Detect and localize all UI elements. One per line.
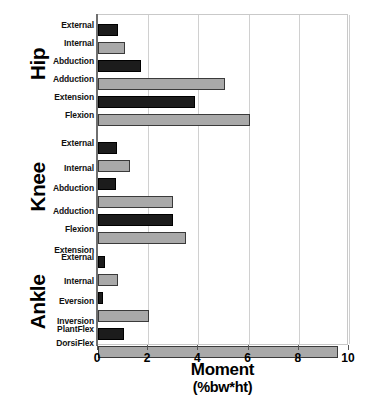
cat-label-ankle-dorsiflex: DorsiFlex [56, 338, 94, 348]
cat-label-ankle-plantflex: PlantFlex [57, 324, 94, 334]
y-axis-line [96, 14, 98, 346]
plot-area [97, 14, 348, 345]
cat-label-ankle-internal: Internal [64, 276, 94, 286]
x-axis-title-unit: (%bw*ht) [97, 379, 348, 395]
bar-knee-flexion [98, 214, 173, 226]
bar-ankle-eversion [98, 292, 103, 304]
x-tick-mark-0 [97, 345, 98, 350]
bar-knee-adduction [98, 196, 173, 208]
x-tick-mark-8 [298, 345, 299, 350]
cat-label-ankle-external: External [61, 252, 94, 262]
cat-label-knee-external: External [61, 138, 94, 148]
x-tick-mark-10 [348, 345, 349, 350]
cat-label-knee-internal: Internal [64, 163, 94, 173]
gridline-8 [299, 15, 300, 344]
bar-ankle-dorsiflex [98, 346, 338, 358]
gridline-2 [148, 15, 149, 344]
x-tick-mark-2 [147, 345, 148, 350]
cat-label-knee-abduction: Abduction [53, 183, 94, 193]
category-label-column: External Internal Abduction Adduction Ex… [22, 0, 94, 414]
gridline-10 [349, 15, 350, 344]
cat-label-knee-adduction: Adduction [53, 206, 94, 216]
bar-ankle-inversion [98, 310, 149, 322]
bar-ankle-external [98, 256, 105, 268]
cat-label-hip-internal: Internal [64, 38, 94, 48]
bar-knee-internal [98, 160, 130, 172]
bar-knee-external [98, 142, 117, 154]
bar-ankle-plantflex [98, 328, 124, 340]
cat-label-hip-flexion: Flexion [65, 110, 94, 120]
bar-hip-adduction [98, 78, 225, 90]
x-axis-title: Moment (%bw*ht) [97, 361, 348, 395]
bar-ankle-internal [98, 274, 118, 286]
cat-label-knee-flexion: Flexion [65, 224, 94, 234]
bar-hip-flexion [98, 114, 250, 126]
bar-hip-external [98, 24, 118, 36]
bar-knee-extension [98, 232, 186, 244]
cat-label-hip-extension: Extension [54, 92, 94, 102]
bar-hip-extension [98, 96, 195, 108]
cat-label-hip-adduction: Adduction [53, 74, 94, 84]
bar-hip-abduction [98, 60, 141, 72]
bar-knee-abduction [98, 178, 116, 190]
x-tick-mark-6 [248, 345, 249, 350]
x-tick-mark-4 [197, 345, 198, 350]
moment-bar-chart: Hip Knee Ankle External Internal Abducti… [0, 0, 369, 414]
cat-label-hip-external: External [61, 20, 94, 30]
gridline-4 [198, 15, 199, 344]
gridline-6 [249, 15, 250, 344]
cat-label-hip-abduction: Abduction [53, 56, 94, 66]
bar-hip-internal [98, 42, 125, 54]
x-axis-title-main: Moment [191, 360, 254, 379]
cat-label-ankle-eversion: Eversion [59, 296, 94, 306]
